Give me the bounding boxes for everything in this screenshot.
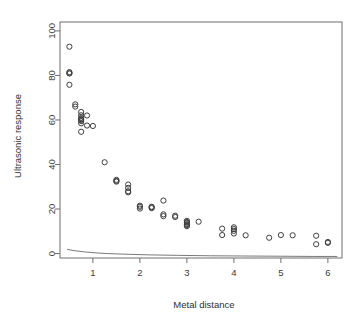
y-tick-label: 40 [46,159,57,170]
y-tick-label: 80 [46,70,57,81]
y-tick-label: 100 [46,23,57,39]
x-tick-label: 6 [325,267,330,278]
x-tick-label: 3 [184,267,189,278]
plot-canvas: 020406080100 123456 Ultrasonic response … [0,0,356,328]
y-tick-label: 20 [46,204,57,215]
x-axis-title: Metal distance [173,299,234,310]
y-tick-label: 0 [46,251,57,256]
y-tick-label: 60 [46,115,57,126]
x-tick-label: 2 [137,267,142,278]
x-tick-label: 1 [90,267,95,278]
y-axis-title: Ultrasonic response [12,94,23,178]
x-tick-label: 5 [278,267,283,278]
x-tick-label: 4 [231,267,236,278]
scatter-plot-figure: 020406080100 123456 Ultrasonic response … [0,0,356,328]
